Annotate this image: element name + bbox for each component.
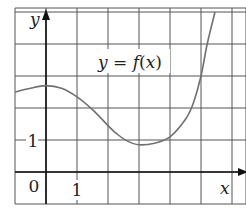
- y-axis-arrow-icon: [42, 9, 50, 20]
- function-label: y = f(x): [97, 52, 162, 72]
- function-graph: y = f(x) y x 1 0 1: [0, 0, 246, 213]
- x-axis-arrow-icon: [238, 168, 246, 176]
- grid-lines: [15, 8, 246, 204]
- x-tick-label-1: 1: [72, 180, 83, 200]
- origin-label: 0: [29, 176, 40, 196]
- x-axis-label: x: [220, 178, 230, 198]
- axes: [15, 9, 246, 204]
- y-tick-label-1: 1: [28, 131, 39, 151]
- y-axis-label: y: [29, 9, 40, 29]
- function-curve: [15, 12, 215, 145]
